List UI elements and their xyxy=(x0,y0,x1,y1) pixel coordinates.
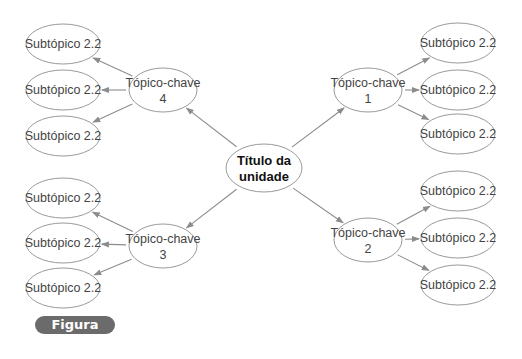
arrow-topic-3-to-subtopic-3 xyxy=(94,259,131,275)
arrow-topic-2-to-subtopic-3 xyxy=(398,255,429,271)
arrow-center-to-topic-2 xyxy=(293,188,343,223)
subtopic-label: Subtópico 2.2 xyxy=(25,37,101,51)
center-title-line2: unidade xyxy=(239,169,289,184)
mind-map: Título daunidadeTópico-chave1Subtópico 2… xyxy=(0,0,522,359)
arrow-topic-2-to-subtopic-1 xyxy=(397,206,430,224)
topic-number-4: 4 xyxy=(160,92,167,106)
topic-number-2: 2 xyxy=(365,242,372,256)
subtopic-label: Subtópico 2.2 xyxy=(420,36,496,50)
arrow-center-to-topic-1 xyxy=(292,108,344,147)
subtopic-label: Subtópico 2.2 xyxy=(25,129,101,143)
topic-number-1: 1 xyxy=(365,92,372,106)
subtopic-label: Subtópico 2.2 xyxy=(25,83,101,97)
figure-label: Figura 10.1 xyxy=(35,316,115,334)
arrow-topic-4-to-subtopic-1 xyxy=(93,58,132,76)
arrow-topic-1-to-subtopic-1 xyxy=(397,58,429,75)
subtopic-label: Subtópico 2.2 xyxy=(25,236,101,250)
subtopic-label: Subtópico 2.2 xyxy=(25,281,101,295)
arrow-center-to-topic-4 xyxy=(187,108,237,147)
arrow-topic-3-to-subtopic-2 xyxy=(102,244,126,245)
topic-label-4: Tópico-chave xyxy=(125,76,200,90)
subtopic-label: Subtópico 2.2 xyxy=(420,231,496,245)
center-node xyxy=(226,144,302,192)
arrow-topic-3-to-subtopic-1 xyxy=(93,212,133,231)
topic-label-3: Tópico-chave xyxy=(125,232,200,246)
subtopic-label: Subtópico 2.2 xyxy=(25,191,101,205)
subtopic-label: Subtópico 2.2 xyxy=(420,83,496,97)
subtopic-label: Subtópico 2.2 xyxy=(420,184,496,198)
subtopic-label: Subtópico 2.2 xyxy=(420,278,496,292)
subtopic-label: Subtópico 2.2 xyxy=(420,127,496,141)
topic-number-3: 3 xyxy=(160,248,167,262)
arrow-center-to-topic-3 xyxy=(187,189,237,228)
topic-label-2: Tópico-chave xyxy=(330,226,405,240)
arrow-topic-1-to-subtopic-3 xyxy=(398,105,429,120)
topic-label-1: Tópico-chave xyxy=(330,76,405,90)
nodes: Título daunidadeTópico-chave1Subtópico 2… xyxy=(25,23,496,308)
center-title-line1: Título da xyxy=(237,153,292,168)
arrow-topic-4-to-subtopic-3 xyxy=(93,104,132,122)
